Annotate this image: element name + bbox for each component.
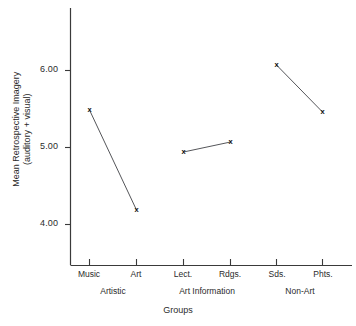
x-tick-label-lect: Lect.: [174, 269, 192, 279]
y-axis-title: Mean Retrospective Imagery (auditory + v…: [11, 39, 34, 219]
y-tick-label-4: 4.00: [18, 218, 58, 228]
data-point-rdgs: x: [228, 137, 233, 146]
x-axis-title: Groups: [0, 305, 356, 315]
group-label-non-art: Non-Art: [285, 286, 314, 296]
line-chart: x x x x x x 6.00 5.00 4.00 Music Art Lec…: [0, 0, 356, 326]
series-line-non-art: [277, 65, 323, 112]
data-point-phts: x: [320, 107, 325, 116]
series-line-artistic: [90, 110, 137, 210]
data-point-art: x: [134, 205, 139, 214]
y-axis-title-line1: Mean Retrospective Imagery: [11, 72, 21, 187]
x-tick-label-art: Art: [131, 269, 142, 279]
y-axis-title-line2: (auditory + visual): [22, 39, 33, 219]
data-point-music: x: [87, 105, 92, 114]
x-tick-label-sds: Sds.: [268, 269, 285, 279]
x-tick-label-phts: Phts.: [313, 269, 332, 279]
x-tick-label-music: Music: [78, 269, 100, 279]
x-tick-label-rdgs: Rdgs.: [219, 269, 241, 279]
series-line-art-information: [184, 142, 231, 152]
group-label-art-information: Art Information: [179, 286, 235, 296]
group-label-artistic: Artistic: [100, 286, 126, 296]
